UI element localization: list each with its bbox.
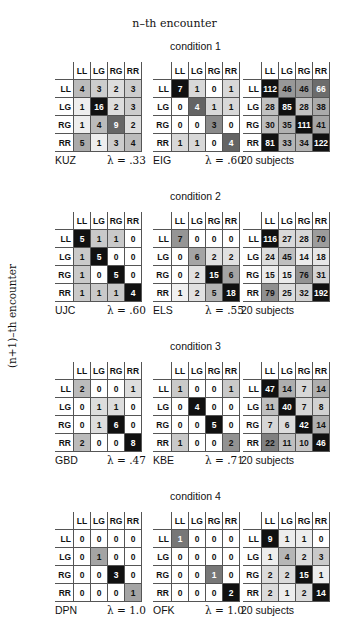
matrix-cell: 3 [125, 80, 142, 98]
column-header: RG [296, 212, 313, 230]
matrix-cell: 79 [262, 284, 279, 302]
matrix-cell: 3 [206, 116, 223, 134]
matrix-cell: 4 [189, 98, 206, 116]
matrix-cell: 9 [262, 530, 279, 548]
matrix-cell: 5 [74, 134, 91, 152]
matrix-cell: 1 [74, 98, 91, 116]
matrix-cell: 1 [206, 566, 223, 584]
matrix-cell: 9 [108, 116, 125, 134]
column-header: RR [313, 362, 330, 380]
matrix-cell: 1 [91, 230, 108, 248]
row-header: RG [243, 116, 262, 134]
matrix-cell: 7 [172, 80, 189, 98]
matrix-cell: 2 [206, 248, 223, 266]
column-header: RR [223, 62, 240, 80]
matrix-cell: 31 [313, 266, 330, 284]
row-header: LG [55, 398, 74, 416]
matrix-cell: 1 [279, 530, 296, 548]
matrix-cell: 42 [296, 416, 313, 434]
lambda-value: λ = .55 [205, 304, 244, 316]
row-header: RR [55, 134, 74, 152]
row-header: RG [55, 116, 74, 134]
column-header: LG [279, 512, 296, 530]
matrix-cell: 15 [206, 266, 223, 284]
matrix-cell: 0 [223, 116, 240, 134]
transition-matrix: LLLGRGRRLL1001LG0400RG0050RR1002 [153, 362, 240, 452]
matrix-cell: 5 [108, 266, 125, 284]
matrix-cell: 1 [279, 584, 296, 602]
column-header: LG [189, 62, 206, 80]
column-header: LG [279, 62, 296, 80]
column-header: RG [206, 362, 223, 380]
matrix-cell: 1 [74, 266, 91, 284]
transition-matrix: LLLGRGRRLL9110LG1423RG22151RR21214 [243, 512, 330, 602]
matrix-cell: 1 [313, 566, 330, 584]
matrix-cell: 25 [279, 284, 296, 302]
matrix-cell: 0 [206, 398, 223, 416]
matrix-cell: 1 [172, 380, 189, 398]
matrix-cell: 6 [189, 248, 206, 266]
matrix-cell: 0 [108, 380, 125, 398]
matrix-cell: 15 [262, 266, 279, 284]
matrix-cell: 2 [108, 98, 125, 116]
matrix-cell: 4 [279, 548, 296, 566]
matrix-cell: 0 [223, 398, 240, 416]
row-header: LG [243, 398, 262, 416]
column-header: LG [189, 362, 206, 380]
row-header: LL [55, 530, 74, 548]
matrix-cell: 1 [108, 284, 125, 302]
row-header: RR [243, 584, 262, 602]
matrix-cell: 0 [206, 548, 223, 566]
matrix-cell: 2 [108, 80, 125, 98]
column-header: LL [172, 62, 189, 80]
matrix-cell: 1 [91, 398, 108, 416]
column-header: RG [206, 62, 223, 80]
matrix-cell: 2 [74, 434, 91, 452]
matrix-cell: 122 [313, 134, 330, 152]
condition-title: condition 3 [0, 340, 349, 352]
matrix-cell: 0 [91, 434, 108, 452]
row-header: LL [153, 530, 172, 548]
column-header: LL [172, 212, 189, 230]
matrix-cell: 3 [108, 566, 125, 584]
matrix-cell: 0 [74, 584, 91, 602]
subject-name: KBE [153, 454, 174, 466]
row-header: LL [243, 380, 262, 398]
matrix-cell: 14 [313, 584, 330, 602]
matrix-cell: 0 [206, 80, 223, 98]
subject-name: 20 subjects [241, 154, 294, 166]
matrix-cell: 10 [296, 434, 313, 452]
row-header: LG [153, 248, 172, 266]
column-header: RR [313, 62, 330, 80]
matrix-cell: 0 [74, 398, 91, 416]
matrix-cell: 0 [108, 248, 125, 266]
matrix-cell: 5 [74, 230, 91, 248]
matrix-caption: 20 subjects [241, 304, 294, 316]
matrix-cell: 0 [91, 584, 108, 602]
transition-matrix: LLLGRGRRLL116272870LG24451418RG15157631R… [243, 212, 330, 302]
matrix-cell: 2 [223, 584, 240, 602]
matrix-cell: 1 [91, 284, 108, 302]
matrix-cell: 0 [189, 434, 206, 452]
row-header: RR [153, 434, 172, 452]
row-header: RG [243, 566, 262, 584]
row-header: LG [153, 98, 172, 116]
matrix-cell: 7 [296, 380, 313, 398]
subject-name: EIG [153, 154, 171, 166]
matrix-cell: 0 [172, 266, 189, 284]
row-header: LG [55, 548, 74, 566]
matrix-cell: 2 [74, 380, 91, 398]
matrix-cell: 41 [313, 116, 330, 134]
x-axis-title: n–th encounter [0, 17, 349, 30]
matrix-cell: 0 [206, 380, 223, 398]
transition-matrix: LLLGRGRRLL7101LG0411RG0030RR1104 [153, 62, 240, 152]
row-header: LG [55, 98, 74, 116]
matrix-cell: 0 [125, 230, 142, 248]
matrix-cell: 0 [108, 548, 125, 566]
subject-name: GBD [55, 454, 78, 466]
matrix-cell: 1 [172, 284, 189, 302]
row-header: LL [243, 230, 262, 248]
column-header: LG [91, 512, 108, 530]
column-header: RG [108, 212, 125, 230]
row-header: RR [243, 134, 262, 152]
